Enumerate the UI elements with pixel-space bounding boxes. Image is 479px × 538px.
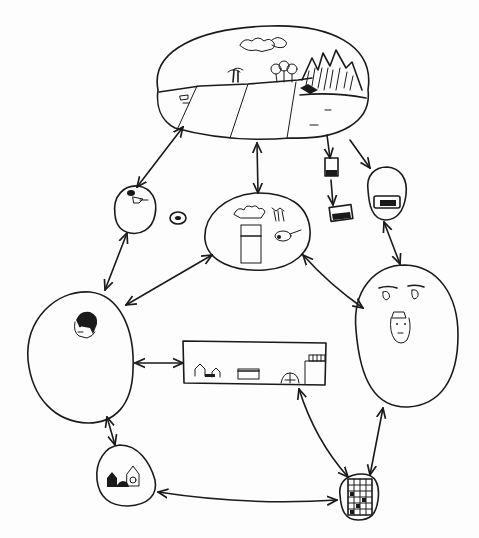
edge-landscape-food	[257, 143, 258, 193]
edge-photo-top-photo-bottom	[331, 180, 333, 205]
edge-landscape-small-blob	[137, 127, 183, 187]
node-vehicle-blob	[368, 167, 407, 220]
node-faces-right	[356, 265, 458, 407]
animal-icon	[127, 190, 135, 196]
node-food	[205, 193, 310, 270]
tree-icon	[271, 61, 297, 82]
eye-icon	[379, 287, 397, 301]
drumstick-icon	[275, 230, 301, 241]
apartment-building-icon	[348, 479, 372, 515]
edge-vehicle-faces	[384, 222, 400, 264]
face-with-cap-icon	[391, 312, 411, 343]
vehicle-icon	[374, 196, 400, 208]
diagram-canvas: black ink sketch on white paper	[0, 0, 479, 538]
edge-landscape-photo-top	[327, 135, 330, 158]
eye-icon	[408, 285, 424, 299]
tree-icon	[228, 68, 243, 82]
dome-icon	[281, 373, 299, 383]
house-icon	[195, 364, 220, 377]
node-photo-bottom	[329, 205, 353, 222]
edge-village-building	[299, 389, 348, 477]
diagram-svg	[0, 0, 479, 538]
node-person-left	[28, 292, 133, 423]
node-tiny-circle	[170, 212, 186, 224]
node-houses-blob	[97, 445, 156, 506]
face-icon	[75, 312, 98, 338]
shop-icon	[238, 369, 259, 379]
edge-faces-building	[370, 408, 383, 475]
edge-person-houses	[107, 417, 115, 445]
edge-landscape-vehicle	[350, 140, 370, 168]
node-photo-top	[325, 158, 338, 176]
node-village	[183, 341, 326, 385]
mountain-icon	[300, 50, 362, 94]
node-small-blob-left	[115, 186, 156, 233]
node-landscape	[157, 26, 369, 139]
house-icon	[107, 466, 139, 487]
node-building-blob	[340, 474, 379, 520]
vegetable-container-icon	[234, 206, 265, 263]
edge-food-faces	[303, 255, 363, 308]
carrot-icon	[272, 208, 284, 221]
edge-houses-building	[158, 492, 337, 502]
tall-building-icon	[305, 355, 325, 384]
edge-food-person	[126, 255, 212, 305]
edge-small-blob-person	[105, 233, 127, 290]
